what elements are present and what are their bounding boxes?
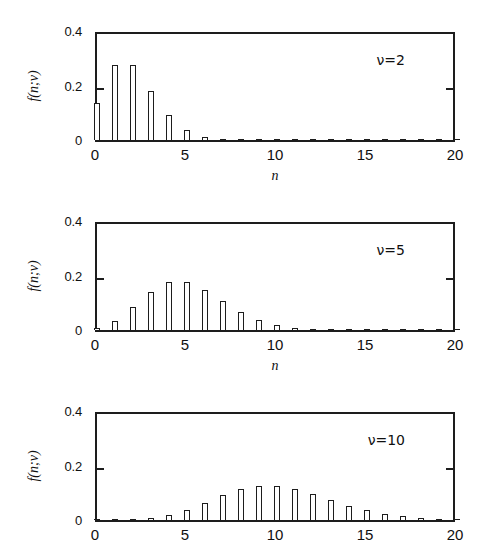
x-tick-label-5: 5 <box>167 526 203 543</box>
x-tick-label-10: 10 <box>257 526 293 543</box>
bar <box>112 321 118 330</box>
bar <box>346 329 352 330</box>
x-tick-label-0: 0 <box>77 146 113 163</box>
bar <box>292 328 298 330</box>
x-tick-label-0: 0 <box>77 336 113 353</box>
bar <box>94 103 100 140</box>
bar <box>94 328 100 330</box>
plot-frame: ν=10 <box>95 412 455 522</box>
bar <box>346 139 352 140</box>
bar <box>202 290 208 330</box>
bar <box>292 139 298 140</box>
x-tick-label-10: 10 <box>257 146 293 163</box>
bar <box>364 510 370 520</box>
bar <box>130 65 136 140</box>
bar <box>94 519 100 520</box>
bar <box>184 510 190 520</box>
chart-panel-nu-2: f(n;ν) 0.4 0.2 0 ν=2 0 5 10 15 20 n <box>0 0 485 190</box>
bar <box>418 139 424 140</box>
bar <box>130 519 136 520</box>
bar <box>256 486 262 520</box>
bar <box>328 139 334 140</box>
bar <box>400 139 406 140</box>
x-tick-label-20: 20 <box>437 336 473 353</box>
bar <box>454 329 460 330</box>
bar <box>400 516 406 520</box>
bar <box>148 518 154 520</box>
bar <box>310 139 316 140</box>
bar <box>418 518 424 520</box>
bar <box>382 514 388 520</box>
bar <box>238 489 244 520</box>
chart-panel-nu-10: f(n;ν) 0.4 0.2 0 ν=10 0 5 10 15 20 <box>0 380 485 547</box>
y-tick-label-0.4: 0.4 <box>34 24 82 39</box>
y-tick-label-0.4: 0.4 <box>34 404 82 419</box>
bar <box>256 139 262 140</box>
x-tick-label-10: 10 <box>257 336 293 353</box>
bar <box>382 329 388 330</box>
bar <box>364 139 370 140</box>
panel-annotation: ν=5 <box>377 242 405 258</box>
x-tick-label-0: 0 <box>77 526 113 543</box>
bar <box>130 307 136 330</box>
panel-annotation: ν=2 <box>377 52 405 68</box>
bar <box>166 282 172 330</box>
bar <box>220 139 226 140</box>
bar <box>436 329 442 330</box>
bar <box>238 312 244 330</box>
bar <box>274 139 280 140</box>
plot-frame: ν=2 <box>95 32 455 142</box>
bar <box>364 329 370 330</box>
bar <box>238 139 244 140</box>
bar <box>328 500 334 520</box>
chart-panel-nu-5: f(n;ν) 0.4 0.2 0 ν=5 0 5 10 15 20 n <box>0 190 485 380</box>
bar <box>274 486 280 520</box>
bar <box>382 139 388 140</box>
x-tick-label-15: 15 <box>347 526 383 543</box>
bar <box>220 495 226 520</box>
x-axis-title: n <box>255 168 295 184</box>
bar <box>328 329 334 330</box>
bar <box>454 519 460 520</box>
y-tick-label-0: 0 <box>34 133 82 148</box>
bar <box>454 139 460 140</box>
bar-series <box>97 34 453 140</box>
y-tick-label-0: 0 <box>34 323 82 338</box>
x-tick-label-15: 15 <box>347 146 383 163</box>
x-tick-label-15: 15 <box>347 336 383 353</box>
poisson-distribution-figure: f(n;ν) 0.4 0.2 0 ν=2 0 5 10 15 20 n f(n;… <box>0 0 485 547</box>
bar <box>148 91 154 141</box>
bar <box>220 301 226 330</box>
bar <box>148 292 154 331</box>
bar <box>202 503 208 520</box>
bar-series <box>97 224 453 330</box>
bar <box>436 139 442 140</box>
x-tick-label-20: 20 <box>437 146 473 163</box>
bar <box>310 494 316 520</box>
bar <box>112 65 118 140</box>
bar <box>418 329 424 330</box>
bar <box>184 130 190 140</box>
bar <box>256 320 262 330</box>
x-tick-label-5: 5 <box>167 336 203 353</box>
bar-series <box>97 414 453 520</box>
bar <box>400 329 406 330</box>
y-tick-label-0.4: 0.4 <box>34 214 82 229</box>
bar <box>112 519 118 520</box>
y-tick-label-0.2: 0.2 <box>34 79 82 94</box>
x-tick-label-5: 5 <box>167 146 203 163</box>
x-axis-title: n <box>255 358 295 374</box>
y-tick-label-0.2: 0.2 <box>34 459 82 474</box>
plot-frame: ν=5 <box>95 222 455 332</box>
y-tick-label-0: 0 <box>34 513 82 528</box>
y-tick-label-0.2: 0.2 <box>34 269 82 284</box>
x-tick-label-20: 20 <box>437 526 473 543</box>
panel-annotation: ν=10 <box>368 432 405 448</box>
bar <box>436 519 442 520</box>
bar <box>166 515 172 520</box>
bar <box>166 115 172 140</box>
bar <box>202 137 208 140</box>
bar <box>292 489 298 520</box>
bar <box>184 282 190 330</box>
bar <box>346 506 352 520</box>
